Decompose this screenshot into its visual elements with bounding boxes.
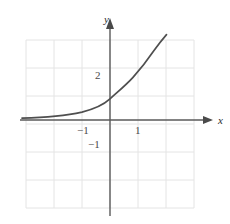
graph-figure: y x −1 1 2 −1 [0,0,230,224]
x-tick-label-1: 1 [135,125,141,136]
y-axis [106,18,114,216]
y-axis-label: y [104,14,109,25]
coordinate-plane [0,0,230,224]
x-tick-label-neg1: −1 [77,125,89,136]
x-axis-label: x [218,115,223,126]
y-tick-label-2: 2 [95,70,101,81]
y-tick-label-neg1: −1 [88,139,100,150]
